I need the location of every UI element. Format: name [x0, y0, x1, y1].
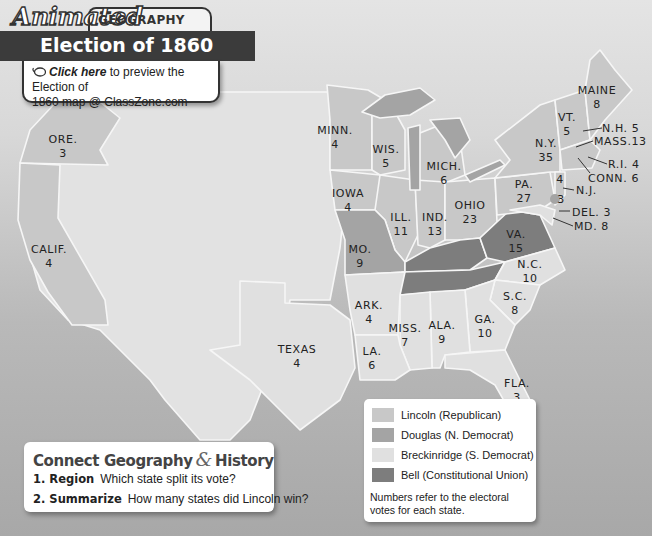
question-2: 2. SummarizeHow many states did Lincoln … [33, 492, 308, 506]
label-missouri: MO.9 [349, 243, 372, 271]
connect-title: Connect Geography&History [33, 448, 274, 470]
click-here-link[interactable]: Click here [49, 65, 106, 79]
label-delaware: DEL. 3 [572, 206, 611, 220]
label-arkansas: ARK.4 [355, 299, 383, 327]
map-legend: Lincoln (Republican) Douglas (N. Democra… [364, 399, 536, 522]
label-michigan: MICH.6 [427, 160, 462, 188]
classzone-link[interactable]: Click here to preview the Election of186… [22, 61, 220, 103]
label-oregon: ORE.3 [48, 133, 77, 161]
label-pennsylvania: PA.27 [515, 178, 534, 206]
label-california: CALIF.4 [31, 243, 67, 271]
legend-note: Numbers refer to the electoral votes for… [370, 491, 534, 517]
legend-swatch-douglas [372, 428, 394, 442]
label-nj-lincoln-votes: 4 [556, 173, 564, 187]
legend-label-breckinridge: Breckinridge (S. Democrat) [401, 448, 534, 462]
label-nj-douglas-votes: 3 [557, 193, 565, 207]
label-texas: TEXAS4 [278, 343, 317, 371]
link-text-line2: 1860 map @ ClassZone.com [32, 95, 188, 109]
legend-swatch-breckinridge [372, 448, 394, 462]
legend-label-bell: Bell (Constitutional Union) [401, 468, 528, 482]
legend-swatch-lincoln [372, 408, 394, 422]
label-louisiana: LA.6 [362, 345, 381, 373]
label-ohio: OHIO23 [454, 199, 485, 227]
brand-geography: GEOGRAPHY [98, 13, 185, 27]
lake-michigan [408, 125, 420, 190]
legend-label-douglas: Douglas (N. Democrat) [401, 428, 513, 442]
label-georgia: GA.10 [474, 313, 495, 341]
label-mississippi: MISS.7 [388, 322, 421, 350]
label-vermont: VT.5 [558, 111, 576, 139]
page-title: Election of 1860 [40, 34, 213, 56]
label-massachusetts: MASS.13 [594, 135, 647, 149]
question-1: 1. RegionWhich state split its vote? [33, 472, 236, 486]
label-alabama: ALA.9 [428, 319, 455, 347]
legend-label-lincoln: Lincoln (Republican) [401, 408, 501, 422]
label-north-carolina: N.C.10 [517, 258, 542, 286]
label-indiana: IND.13 [422, 211, 448, 239]
label-virginia: VA.15 [506, 228, 525, 256]
election-1860-map-page: MAINE8 VT.5 N.H. 5 MASS.13 R.I. 4 CONN. … [0, 0, 652, 536]
label-rhode-island: R.I. 4 [608, 158, 640, 172]
label-iowa: IOWA4 [332, 187, 364, 215]
label-illinois: ILL.11 [390, 211, 411, 239]
connect-geography-history-box: Connect Geography&History 1. RegionWhich… [24, 442, 274, 512]
label-new-york: N.Y.35 [535, 137, 557, 165]
label-new-jersey: N.J. [576, 184, 597, 198]
label-south-carolina: S.C.8 [503, 290, 527, 318]
label-maryland: MD. 8 [574, 220, 609, 234]
label-new-hampshire: N.H. 5 [602, 122, 639, 136]
legend-swatch-bell [372, 468, 394, 482]
label-minnesota: MINN.4 [317, 124, 353, 152]
label-maine: MAINE8 [578, 84, 616, 112]
label-wisconsin: WIS.5 [373, 143, 400, 171]
mouse-icon [32, 67, 46, 77]
